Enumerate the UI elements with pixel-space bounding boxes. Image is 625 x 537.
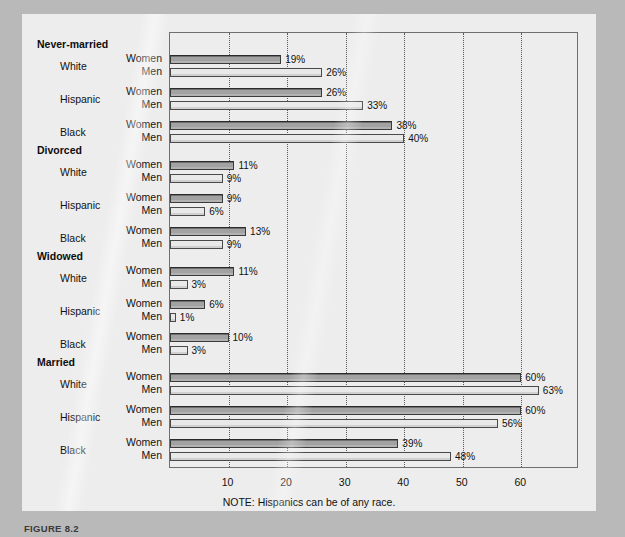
bar-divorced-hispanic-men [170, 207, 205, 216]
gridline-50 [463, 33, 464, 467]
sex-label-women: Women [126, 225, 162, 236]
sex-label-men: Men [142, 99, 162, 110]
race-label-widowed-white: White [60, 272, 87, 284]
sex-label-men: Men [142, 172, 162, 183]
bar-value-widowed-black-women: 10% [233, 333, 253, 342]
gridline-40 [404, 33, 405, 467]
bar-value-widowed-hispanic-women: 6% [209, 300, 223, 309]
sex-label-men: Men [142, 205, 162, 216]
sex-label-women: Women [126, 404, 162, 415]
bar-value-married-white-women: 60% [525, 373, 545, 382]
sex-label-men: Men [142, 311, 162, 322]
bar-widowed-hispanic-men [170, 313, 176, 322]
sex-label-women: Women [126, 192, 162, 203]
figure-caption: FIGURE 8.2 [24, 523, 79, 537]
sex-label-women: Women [126, 119, 162, 130]
race-label-divorced-hispanic: Hispanic [60, 199, 100, 211]
bar-value-never-married-black-men: 40% [408, 134, 428, 143]
sex-label-women: Women [126, 371, 162, 382]
race-label-married-hispanic: Hispanic [60, 411, 100, 423]
bar-married-black-men [170, 452, 451, 461]
race-label-divorced-black: Black [60, 232, 86, 244]
x-tick-20: 20 [280, 476, 292, 488]
sex-label-men: Men [142, 278, 162, 289]
bar-value-never-married-hispanic-women: 26% [326, 88, 346, 97]
gridline-30 [346, 33, 347, 467]
sex-label-men: Men [142, 417, 162, 428]
bar-divorced-white-men [170, 174, 223, 183]
sex-label-women: Women [126, 159, 162, 170]
x-tick-10: 10 [222, 476, 234, 488]
bar-never-married-black-men [170, 134, 404, 143]
bar-divorced-white-women [170, 161, 234, 170]
sex-label-men: Men [142, 384, 162, 395]
race-label-widowed-black: Black [60, 338, 86, 350]
bar-value-married-hispanic-men: 56% [502, 419, 522, 428]
bar-married-hispanic-women [170, 406, 521, 415]
bar-value-divorced-hispanic-men: 6% [209, 207, 223, 216]
bar-value-never-married-white-men: 26% [326, 68, 346, 77]
sex-label-women: Women [126, 86, 162, 97]
sex-label-men: Men [142, 66, 162, 77]
group-title-widowed: Widowed [37, 250, 83, 262]
race-label-never-married-black: Black [60, 126, 86, 138]
bar-married-hispanic-men [170, 419, 498, 428]
bar-widowed-white-women [170, 267, 234, 276]
group-title-married: Married [37, 356, 75, 368]
sex-label-women: Women [126, 53, 162, 64]
bar-value-widowed-hispanic-men: 1% [180, 313, 194, 322]
bar-never-married-black-women [170, 121, 392, 130]
bar-never-married-hispanic-men [170, 101, 363, 110]
x-tick-30: 30 [339, 476, 351, 488]
bar-value-widowed-white-women: 11% [238, 267, 257, 276]
bar-value-never-married-white-women: 19% [285, 55, 305, 64]
x-tick-60: 60 [514, 476, 526, 488]
bar-divorced-black-women [170, 227, 246, 236]
chart-row-labels: Never-marriedWhiteWomenMenHispanicWomenM… [22, 32, 169, 468]
bar-never-married-white-women [170, 55, 281, 64]
race-label-widowed-hispanic: Hispanic [60, 305, 100, 317]
bar-value-married-black-women: 39% [402, 439, 422, 448]
chart-note: NOTE: Hispanics can be of any race. [22, 496, 596, 508]
bar-widowed-white-men [170, 280, 188, 289]
group-title-divorced: Divorced [37, 144, 82, 156]
bar-widowed-black-women [170, 333, 229, 342]
bar-value-divorced-black-men: 9% [227, 240, 241, 249]
figure-page: 19%26%26%33%38%40%11%9%9%6%13%9%11%3%6%1… [22, 14, 596, 511]
bar-value-married-white-men: 63% [543, 386, 563, 395]
chart-plot-area: 19%26%26%33%38%40%11%9%9%6%13%9%11%3%6%1… [169, 32, 578, 468]
bar-value-never-married-black-women: 38% [396, 121, 416, 130]
bar-married-white-men [170, 386, 539, 395]
bar-divorced-hispanic-women [170, 194, 223, 203]
group-title-never-married: Never-married [37, 38, 108, 50]
bar-value-divorced-white-women: 11% [238, 161, 257, 170]
sex-label-women: Women [126, 331, 162, 342]
race-label-married-black: Black [60, 444, 86, 456]
bar-value-never-married-hispanic-men: 33% [367, 101, 387, 110]
gridline-20 [287, 33, 288, 467]
x-tick-50: 50 [456, 476, 468, 488]
bar-never-married-hispanic-women [170, 88, 322, 97]
bar-value-widowed-black-men: 3% [192, 346, 206, 355]
bar-widowed-black-men [170, 346, 188, 355]
sex-label-women: Women [126, 298, 162, 309]
race-label-never-married-hispanic: Hispanic [60, 93, 100, 105]
bar-value-divorced-black-women: 13% [250, 227, 270, 236]
bar-widowed-hispanic-women [170, 300, 205, 309]
bar-divorced-black-men [170, 240, 223, 249]
x-tick-40: 40 [397, 476, 409, 488]
sex-label-men: Men [142, 450, 162, 461]
bar-never-married-white-men [170, 68, 322, 77]
race-label-never-married-white: White [60, 60, 87, 72]
bar-value-married-hispanic-women: 60% [525, 406, 545, 415]
bar-married-black-women [170, 439, 398, 448]
gridline-10 [229, 33, 230, 467]
sex-label-women: Women [126, 437, 162, 448]
sex-label-men: Men [142, 132, 162, 143]
bar-value-widowed-white-men: 3% [192, 280, 206, 289]
sex-label-men: Men [142, 344, 162, 355]
sex-label-women: Women [126, 265, 162, 276]
race-label-married-white: White [60, 378, 87, 390]
bar-married-white-women [170, 373, 521, 382]
bar-value-divorced-white-men: 9% [227, 174, 241, 183]
